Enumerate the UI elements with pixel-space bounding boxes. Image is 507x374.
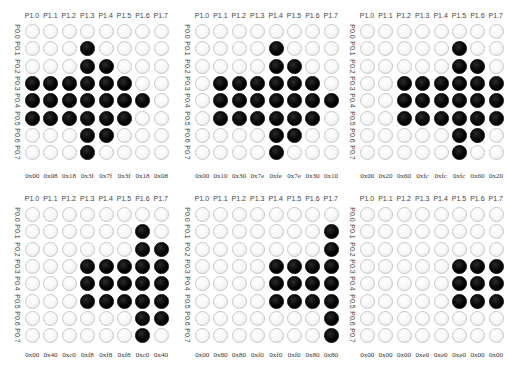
led-on	[452, 259, 467, 274]
led-off	[434, 259, 449, 274]
led-off	[99, 328, 114, 343]
led-off	[25, 259, 40, 274]
row-label: P0.4	[347, 93, 357, 109]
led-off	[489, 145, 504, 160]
led-on	[452, 128, 467, 143]
led-off	[269, 224, 284, 239]
led-off	[43, 259, 58, 274]
column-label: P1.2	[395, 12, 413, 22]
row-label-text: P0.2	[184, 58, 191, 74]
led-off	[269, 207, 284, 222]
led-on	[269, 59, 284, 74]
led-on	[287, 59, 302, 74]
column-label: P1.2	[230, 195, 248, 205]
led-off	[305, 145, 320, 160]
led-off	[135, 76, 150, 91]
led-on	[287, 276, 302, 291]
led-off	[470, 24, 485, 39]
led-off	[360, 294, 375, 309]
row-label: P0.2	[182, 242, 192, 258]
led-on	[305, 76, 320, 91]
row-label: P0.3	[347, 76, 357, 92]
led-off	[117, 328, 132, 343]
led-off	[378, 111, 393, 126]
led-off	[452, 311, 467, 326]
row-label-text: P0.4	[14, 276, 21, 292]
hex-code-row: 0x000x400xc00xf80xf80xf80xc00x40	[23, 351, 170, 359]
row-label-text: P0.4	[14, 93, 21, 109]
led-off	[250, 59, 265, 74]
led-on	[324, 276, 339, 291]
led-off	[62, 24, 77, 39]
led-off	[415, 59, 430, 74]
row-label: P0.0	[182, 207, 192, 223]
column-label: P1.1	[41, 12, 59, 22]
led-off	[232, 242, 247, 257]
led-off	[452, 328, 467, 343]
led-off	[287, 311, 302, 326]
column-label: P1.4	[267, 12, 285, 22]
row-label-text: P0.4	[184, 93, 191, 109]
hex-code: 0x60	[468, 172, 486, 180]
led-off	[415, 294, 430, 309]
hex-code: 0x18	[60, 172, 78, 180]
led-off	[195, 207, 210, 222]
led-on	[99, 59, 114, 74]
row-label: P0.1	[182, 224, 192, 240]
led-on	[99, 111, 114, 126]
led-off	[305, 242, 320, 257]
led-on	[489, 76, 504, 91]
led-off	[378, 259, 393, 274]
led-off	[397, 242, 412, 257]
led-off	[43, 207, 58, 222]
column-label: P1.0	[193, 12, 211, 22]
led-on	[213, 93, 228, 108]
hex-code: 0x00	[468, 351, 486, 359]
column-label: P1.1	[376, 195, 394, 205]
led-on	[117, 276, 132, 291]
led-on	[62, 93, 77, 108]
row-label: P0.2	[12, 59, 22, 75]
hex-code: 0x00	[193, 351, 211, 359]
led-on	[269, 128, 284, 143]
row-label: P0.1	[182, 41, 192, 57]
led-off	[287, 41, 302, 56]
led-on	[489, 294, 504, 309]
hex-code: 0x80	[211, 351, 229, 359]
led-off	[305, 328, 320, 343]
column-label: P1.1	[211, 12, 229, 22]
led-off	[195, 311, 210, 326]
led-off	[213, 224, 228, 239]
led-off	[250, 259, 265, 274]
led-on	[452, 145, 467, 160]
hex-code: 0xf0	[248, 351, 266, 359]
led-off	[213, 128, 228, 143]
led-off	[250, 24, 265, 39]
led-off	[415, 24, 430, 39]
row-label: P0.3	[182, 259, 192, 275]
led-off	[195, 242, 210, 257]
led-off	[269, 24, 284, 39]
column-label: P1.3	[78, 12, 96, 22]
led-off	[43, 242, 58, 257]
led-off	[213, 294, 228, 309]
column-label: P1.3	[248, 12, 266, 22]
led-on	[135, 328, 150, 343]
led-off	[195, 41, 210, 56]
led-off	[117, 242, 132, 257]
led-off	[470, 207, 485, 222]
hex-code: 0xc0	[133, 351, 151, 359]
led-on	[305, 93, 320, 108]
led-off	[154, 224, 169, 239]
led-off	[195, 224, 210, 239]
led-off	[305, 311, 320, 326]
led-off	[397, 294, 412, 309]
led-off	[135, 41, 150, 56]
led-off	[489, 224, 504, 239]
column-label: P1.6	[303, 195, 321, 205]
hex-code: 0xfc	[413, 172, 431, 180]
column-label: P1.7	[322, 12, 340, 22]
row-label-text: P0.1	[349, 41, 356, 57]
led-on	[452, 276, 467, 291]
hex-code: 0xe0	[413, 351, 431, 359]
